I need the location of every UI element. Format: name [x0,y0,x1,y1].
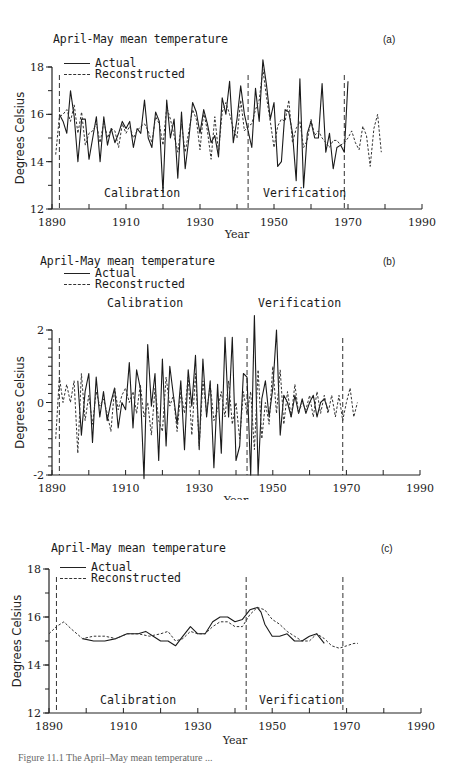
line-chart-a: 12141618189019101930195019701990YearDegr… [0,0,454,250]
verification-label: Verification [263,186,346,200]
y-axis-title: Degrees Celsius [13,356,27,448]
x-tick-label: 1910 [112,216,140,229]
y-tick-label: 0 [37,397,44,410]
y-tick-label: 18 [27,563,41,576]
x-tick-label: 1930 [186,216,214,229]
x-tick-label: 1890 [35,720,63,733]
chart-panel-c: April-May mean temperature (c) 121416181… [0,500,454,750]
x-tick-label: 1950 [259,482,287,495]
legend-item-reconstructed: Reconstructed [60,573,181,584]
calibration-label: Calibration [100,693,176,707]
solid-line-icon [60,567,86,568]
legend-item-reconstructed: Reconstructed [64,69,185,80]
y-tick-label: 16 [30,108,44,121]
axes: 12141618189019101930195019701990YearDegr… [10,563,435,747]
x-tick-label: 1950 [258,720,286,733]
x-tick-label: 1890 [38,216,66,229]
y-tick-label: 14 [27,659,41,672]
chart-legend: Actual Reconstructed [60,562,181,584]
dashed-line-icon [60,578,86,579]
chart-panel-b: April-May mean temperature (b) -20218901… [0,250,454,500]
y-tick-label: 18 [30,61,44,74]
solid-line-icon [64,273,90,274]
x-tick-label: 1910 [109,720,137,733]
x-tick-label: 1890 [38,482,66,495]
chart-panel-a: April-May mean temperature (a) 121416181… [0,0,454,250]
x-tick-label: 1990 [406,482,434,495]
series-reconstructed [56,69,382,166]
y-axis-title: Degrees Celsius [10,595,24,687]
x-tick-label: 1970 [332,482,360,495]
x-tick-label: 1930 [185,482,213,495]
legend-item-reconstructed: Reconstructed [64,279,185,290]
y-tick-label: 2 [37,324,44,337]
x-tick-label: 1970 [334,216,362,229]
calibration-label: Calibration [104,186,180,200]
chart-legend: Actual Reconstructed [64,58,185,80]
x-tick-label: 1950 [260,216,288,229]
chart-legend: Actual Reconstructed [64,268,185,290]
y-tick-label: -2 [33,469,44,482]
x-tick-label: 1930 [184,720,212,733]
x-axis-title: Year [222,734,248,747]
verification-label: Verification [258,296,341,310]
series-reconstructed [49,607,358,648]
verification-label: Verification [259,693,342,707]
line-chart-c: 12141618189019101930195019701990YearDegr… [0,500,454,750]
series-actual [83,607,325,645]
y-tick-label: 12 [27,707,41,720]
y-axis-title: Degrees Celsius [13,92,27,184]
solid-line-icon [64,63,90,64]
y-tick-label: 16 [27,611,41,624]
series-actual [78,316,328,479]
axes: 12141618189019101930195019701990YearDegr… [13,61,436,241]
dashed-line-icon [64,74,90,75]
dashed-line-icon [64,284,90,285]
y-tick-label: 14 [30,156,44,169]
x-tick-label: 1910 [112,482,140,495]
calibration-label: Calibration [107,296,183,310]
x-tick-label: 1970 [333,720,361,733]
x-axis-title: Year [224,228,250,241]
x-tick-label: 1990 [408,216,436,229]
y-tick-label: 12 [30,203,44,216]
figure-caption: Figure 11.1 The April–May mean temperatu… [18,752,212,763]
x-tick-label: 1990 [407,720,435,733]
